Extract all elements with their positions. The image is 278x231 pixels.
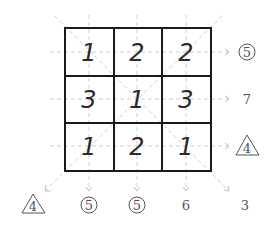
- cell-r0c2: 2: [178, 39, 193, 67]
- anti-diagonal-clue: 4: [29, 199, 37, 214]
- row-clues: 5 7 4: [236, 44, 259, 156]
- cell-r1c1: 1: [129, 86, 144, 114]
- row-clue-1: 5: [243, 45, 251, 60]
- puzzle-diagram: 1 2 2 3 1 3 1 2 1 5 7 4 5 5 6 4 3: [0, 0, 278, 231]
- cell-r1c0: 3: [81, 86, 96, 114]
- cell-r2c0: 1: [81, 133, 96, 161]
- col-arrow-icon: [86, 187, 92, 191]
- cell-r0c1: 2: [129, 39, 144, 67]
- col-clue-1: 5: [85, 198, 93, 213]
- main-diagonal-clue: 3: [241, 198, 249, 213]
- column-clues: 5 5 6: [81, 197, 190, 213]
- col-clue-3: 6: [182, 198, 190, 213]
- col-clue-2: 5: [133, 198, 141, 213]
- cell-r2c1: 2: [129, 133, 144, 161]
- cell-values: 1 2 2 3 1 3 1 2 1: [81, 39, 193, 161]
- col-arrow-icon: [134, 187, 140, 191]
- cell-r1c2: 3: [178, 86, 193, 114]
- cell-r0c0: 1: [81, 39, 96, 67]
- row-clue-2: 7: [243, 92, 251, 107]
- cell-r2c2: 1: [178, 133, 193, 161]
- row-clue-3: 4: [243, 141, 251, 156]
- col-arrow-icon: [183, 187, 189, 191]
